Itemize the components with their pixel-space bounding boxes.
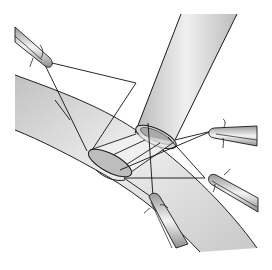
clamp-top-left [15,27,52,67]
anastomosis-illustration [0,0,272,270]
clamp-right-upper [209,119,257,148]
